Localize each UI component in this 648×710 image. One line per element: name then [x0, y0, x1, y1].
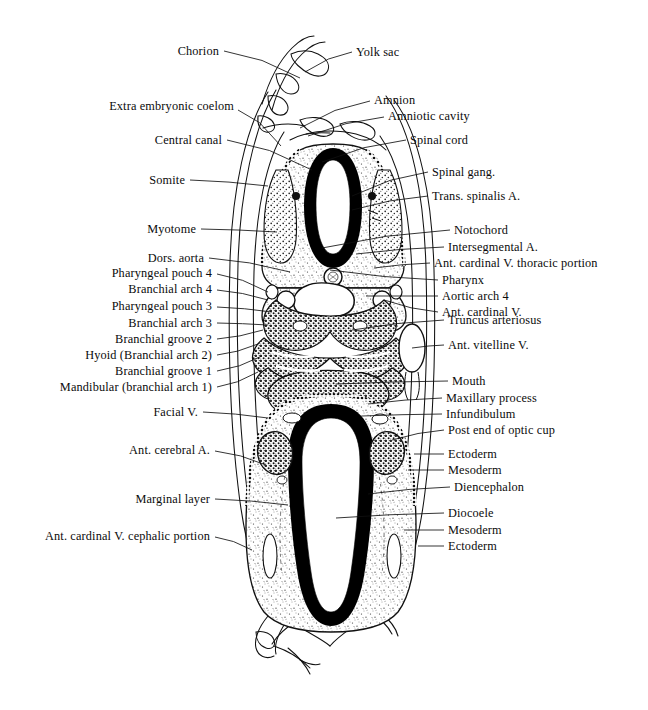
spinal-ganglion-left — [292, 192, 300, 200]
label-pharyngeal-pouch-4: Pharyngeal pouch 4 — [112, 267, 212, 280]
label-truncus-arteriosus: Truncus arteriosus — [448, 314, 541, 327]
leader-branchial-arch-3 — [217, 323, 268, 325]
label-branchial-groove-2: Branchial groove 2 — [115, 333, 212, 346]
leader-branchial-groove-2 — [217, 330, 263, 339]
leader-facial-v — [203, 412, 268, 418]
label-infundibulum: Infundibulum — [446, 408, 515, 421]
label-chorion: Chorion — [178, 45, 219, 58]
label-aortic-arch-4: Aortic arch 4 — [442, 290, 509, 303]
leader-pharyngeal-pouch-4 — [217, 274, 268, 292]
label-branchial-arch-4: Branchial arch 4 — [128, 283, 212, 296]
leader-chorion — [224, 51, 300, 78]
label-branchial-groove-1: Branchial groove 1 — [115, 365, 212, 378]
head-section — [246, 395, 416, 632]
label-dors-aorta: Dors. aorta — [148, 252, 204, 265]
label-diocoele: Diocoele — [448, 507, 494, 520]
label-facial-v: Facial V. — [153, 406, 198, 419]
label-pharynx: Pharynx — [442, 274, 484, 287]
label-hyoid-branchial-arch-2: Hyoid (Branchial arch 2) — [85, 349, 212, 362]
label-branchial-arch-3: Branchial arch 3 — [128, 317, 212, 330]
label-somite: Somite — [149, 174, 185, 187]
facial-vein-left — [277, 476, 287, 484]
spinal-ganglion-right — [368, 192, 376, 200]
label-mesoderm: Mesoderm — [448, 524, 502, 537]
label-post-end-of-optic-cup: Post end of optic cup — [448, 424, 555, 437]
label-ant-cardinal-v-thoracic-portion: Ant. cardinal V. thoracic portion — [434, 257, 598, 270]
leader-mandibular-branchial-arch-1 — [217, 372, 258, 387]
somite-left — [264, 170, 297, 263]
label-maxillary-process: Maxillary process — [446, 392, 537, 405]
somite-right — [369, 170, 402, 263]
label-diencephalon: Diencephalon — [454, 481, 524, 494]
label-ant-cerebral-a: Ant. cerebral A. — [129, 444, 210, 457]
ant-cardinal-vein-right — [390, 285, 402, 299]
label-ectoderm: Ectoderm — [448, 540, 497, 553]
label-amniotic-cavity: Amniotic cavity — [388, 110, 470, 123]
label-mandibular-branchial-arch-1: Mandibular (branchial arch 1) — [60, 381, 212, 394]
leader-somite — [190, 180, 268, 186]
label-myotome: Myotome — [147, 223, 196, 236]
label-pharyngeal-pouch-3: Pharyngeal pouch 3 — [112, 300, 212, 313]
label-ectoderm: Ectoderm — [448, 448, 497, 461]
label-extra-embryonic-coelom: Extra embryonic coelom — [109, 100, 234, 113]
label-amnion: Amnion — [374, 94, 415, 107]
label-spinal-gang: Spinal gang. — [432, 166, 495, 179]
leader-branchial-arch-4 — [217, 290, 268, 300]
label-mesoderm: Mesoderm — [448, 464, 502, 477]
central-canal — [316, 160, 350, 254]
label-yolk-sac: Yolk sac — [356, 46, 399, 59]
aortic-arch-4 — [293, 321, 307, 331]
label-ant-cardinal-v-cephalic-portion: Ant. cardinal V. cephalic portion — [45, 530, 210, 543]
label-central-canal: Central canal — [155, 134, 222, 147]
label-trans-spinalis-a: Trans. spinalis A. — [432, 190, 520, 203]
label-ant-vitelline-v: Ant. vitelline V. — [448, 339, 529, 352]
embryo-section-figure: ChorionExtra embryonic coelomCentral can… — [0, 0, 648, 710]
label-mouth: Mouth — [452, 375, 486, 388]
infundibulum-left — [283, 413, 301, 423]
label-spinal-cord: Spinal cord — [410, 134, 468, 147]
optic-cup-left — [258, 432, 293, 475]
leader-amnion — [300, 101, 370, 128]
ant-cardinal-vein-cephalic-right — [387, 534, 401, 578]
facial-vein-right — [387, 476, 397, 484]
label-intersegmental-a: Intersegmental A. — [448, 241, 538, 254]
label-marginal-layer: Marginal layer — [135, 493, 210, 506]
label-notochord: Notochord — [454, 224, 508, 237]
ant-cardinal-vein-cephalic-left — [263, 534, 277, 578]
